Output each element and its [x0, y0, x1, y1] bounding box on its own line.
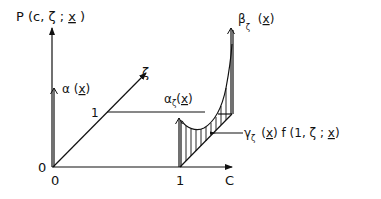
zeta-one-tick: 1 [91, 106, 99, 120]
p-axis-label: P (c, ζ ; x ) [16, 9, 85, 24]
origin-vertical-tick: 0 [38, 160, 46, 175]
probability-density-diagram: P (c, ζ ; x ) α (x) ζ 1 αζ(x) βζ (x) γζ … [0, 0, 381, 199]
c-one-tick: 1 [176, 173, 184, 188]
zeta-axis-label: ζ [142, 65, 149, 80]
alpha-label: α (x) [62, 82, 90, 96]
gamma-label: γζ (x) f (1, ζ ; x) [244, 126, 340, 143]
origin-horizontal-tick: 0 [51, 173, 59, 188]
beta-zeta-label: βζ (x) [238, 12, 274, 32]
c-axis-label: C [225, 173, 234, 188]
gamma-density-curve [182, 44, 232, 130]
alpha-zeta-label: αζ(x) [164, 92, 193, 108]
